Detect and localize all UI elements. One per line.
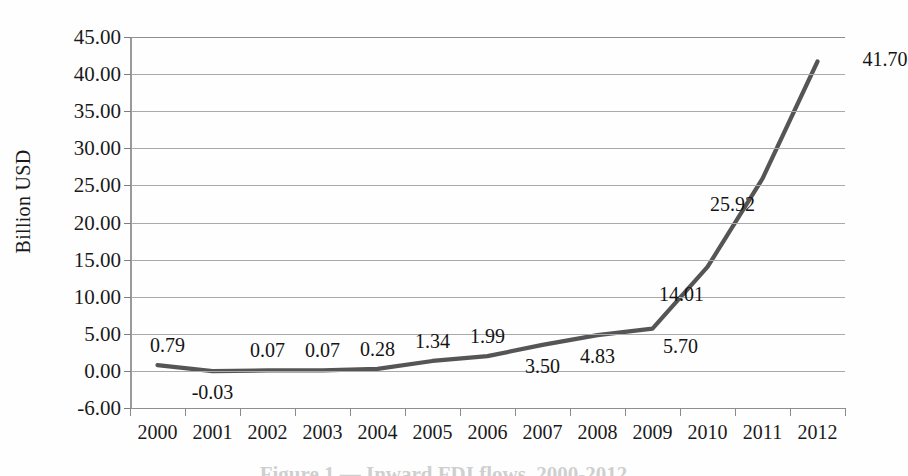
y-tick-label: 10.00 [25,286,121,307]
y-tick-mark [124,148,131,149]
x-tick-label: 2011 [743,421,782,444]
x-tick-mark [790,408,791,416]
gridline [130,223,845,224]
plot-area: 45.0040.0035.0030.0025.0020.0015.0010.00… [130,37,845,408]
gridline [130,37,845,38]
y-tick-label: 0.00 [25,360,121,381]
y-tick-mark [124,37,131,38]
x-tick-label: 2003 [303,421,343,444]
data-point-label: 3.50 [525,354,560,377]
x-tick-label: 2002 [248,421,288,444]
y-tick-label: 30.00 [25,138,121,159]
data-point-label: 0.07 [250,339,285,362]
gridline [130,74,845,75]
x-tick-label: 2006 [468,421,508,444]
y-tick-mark [124,371,131,372]
x-tick-mark [405,408,406,416]
gridline [130,408,845,409]
data-point-label: 41.70 [863,48,908,71]
x-tick-mark [735,408,736,416]
data-point-label: -0.03 [192,381,234,404]
x-tick-mark [570,408,571,416]
x-tick-mark [295,408,296,416]
x-tick-mark [460,408,461,416]
y-tick-label: 20.00 [25,212,121,233]
x-tick-mark [185,408,186,416]
y-tick-mark [124,260,131,261]
y-tick-mark [124,297,131,298]
y-tick-label: -6.00 [25,398,121,419]
data-point-label: 25.92 [710,192,755,215]
x-tick-mark [515,408,516,416]
data-point-label: 5.70 [663,334,698,357]
data-point-label: 4.83 [580,345,615,368]
x-tick-mark [625,408,626,416]
x-tick-label: 2000 [138,421,178,444]
data-point-label: 1.99 [470,325,505,348]
x-tick-label: 2012 [798,421,838,444]
x-tick-mark [130,408,131,416]
y-tick-mark [124,185,131,186]
y-tick-mark [124,74,131,75]
data-point-label: 0.28 [360,337,395,360]
y-tick-mark [124,111,131,112]
x-tick-mark [350,408,351,416]
gridline [130,260,845,261]
data-point-label: 0.79 [150,334,185,357]
y-tick-label: 25.00 [25,175,121,196]
x-tick-mark [845,408,846,416]
y-tick-label: 5.00 [25,323,121,344]
data-point-label: 0.07 [305,339,340,362]
y-tick-mark [124,334,131,335]
gridline [130,148,845,149]
figure-caption: Figure 1 — Inward FDI flows, 2000-2012 [0,462,887,476]
x-tick-mark [680,408,681,416]
x-tick-label: 2005 [413,421,453,444]
gridline [130,111,845,112]
y-tick-label: 35.00 [25,101,121,122]
gridline [130,371,845,372]
x-tick-label: 2008 [578,421,618,444]
x-tick-label: 2007 [523,421,563,444]
y-tick-label: 40.00 [25,64,121,85]
x-tick-label: 2004 [358,421,398,444]
data-point-label: 1.34 [415,329,450,352]
gridline [130,297,845,298]
x-tick-label: 2010 [688,421,728,444]
y-tick-label: 15.00 [25,249,121,270]
x-tick-mark [240,408,241,416]
x-tick-label: 2009 [633,421,673,444]
gridline [130,185,845,186]
x-tick-label: 2001 [193,421,233,444]
y-tick-label: 45.00 [25,27,121,48]
y-tick-mark [124,223,131,224]
data-point-label: 14.01 [659,282,704,305]
